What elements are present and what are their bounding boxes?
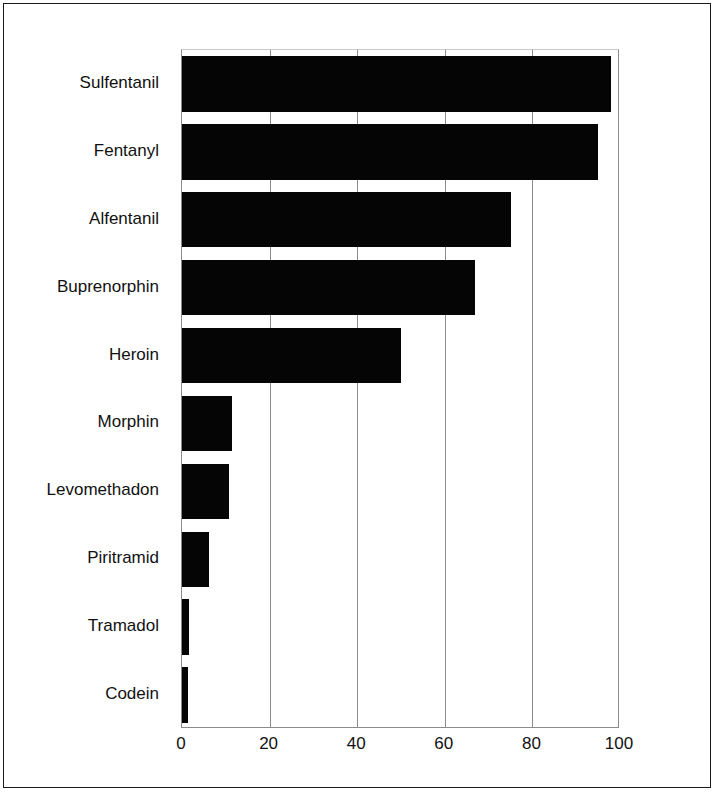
value-axis-tick-label: 60 [434, 735, 453, 752]
category-axis-label: Alfentanil [89, 210, 159, 227]
bar [182, 192, 511, 247]
bar-row [182, 667, 618, 722]
value-axis-tick-label: 20 [259, 735, 278, 752]
bar-row [182, 260, 618, 315]
category-axis-label: Heroin [109, 346, 159, 363]
bar [182, 328, 401, 383]
bar [182, 532, 209, 587]
figure-frame: SulfentanilFentanylAlfentanilBuprenorphi… [3, 3, 711, 788]
value-axis-tick-label: 80 [522, 735, 541, 752]
bar-row [182, 56, 618, 111]
plot-area [181, 49, 619, 728]
bar [182, 56, 611, 111]
bar [182, 667, 188, 722]
bar-row [182, 396, 618, 451]
category-axis-label: Fentanyl [94, 142, 159, 159]
value-axis-tick-label: 40 [347, 735, 366, 752]
bar [182, 599, 189, 654]
category-axis-label: Levomethadon [47, 481, 159, 498]
category-axis-label: Morphin [98, 413, 159, 430]
bar-row [182, 599, 618, 654]
category-axis-label: Piritramid [87, 549, 159, 566]
category-axis-label: Buprenorphin [57, 278, 159, 295]
bar [182, 396, 232, 451]
category-axis-label: Codein [105, 685, 159, 702]
bar [182, 260, 475, 315]
value-axis-tick-label: 0 [176, 735, 185, 752]
category-axis-label: Sulfentanil [80, 74, 159, 91]
bar [182, 464, 229, 519]
bar-row [182, 124, 618, 179]
category-axis-label: Tramadol [88, 617, 159, 634]
bar-row [182, 532, 618, 587]
value-axis-tick-label: 100 [605, 735, 633, 752]
bar-row [182, 328, 618, 383]
bar-row [182, 464, 618, 519]
bar-row [182, 192, 618, 247]
bar [182, 124, 598, 179]
